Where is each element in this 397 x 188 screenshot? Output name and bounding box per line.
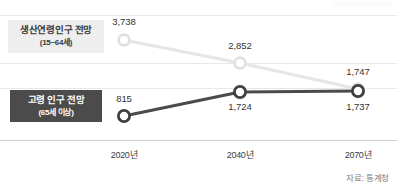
legend-elderly-title: 고령 인구 전망: [28, 95, 85, 106]
legend-elderly-subtitle: (65세 이상): [38, 108, 73, 117]
marker-elderly-2070: [352, 85, 363, 96]
value-label-elderly-2020: 815: [116, 93, 132, 104]
marker-elderly-2040: [234, 86, 245, 97]
marker-working-2040: [235, 58, 246, 69]
marker-elderly-2020: [118, 110, 129, 121]
value-label-elderly-2070: 1,737: [346, 101, 369, 112]
value-label-elderly-2040: 1,724: [228, 101, 251, 112]
value-label-working-2020: 3,738: [112, 16, 135, 27]
source-note: 자료: 통계청: [346, 171, 389, 183]
legend-working-age-title: 생산연령인구 전망: [20, 25, 92, 36]
xaxis-tick-2020: 2020년: [111, 148, 138, 161]
value-label-working-2070: 1,747: [346, 66, 369, 77]
marker-working-2020: [119, 35, 130, 46]
value-label-working-2040: 2,852: [228, 40, 251, 51]
legend-elderly-population: 고령 인구 전망 (65세 이상): [10, 90, 102, 122]
xaxis-tick-2070: 2070년: [345, 148, 372, 161]
legend-working-age-subtitle: (15~64세): [40, 38, 72, 47]
legend-working-age-population: 생산연령인구 전망 (15~64세): [8, 20, 104, 53]
population-projection-chart: 생산연령인구 전망 (15~64세) 고령 인구 전망 (65세 이상) 3,7…: [0, 0, 397, 188]
xaxis-tick-2040: 2040년: [227, 148, 254, 161]
